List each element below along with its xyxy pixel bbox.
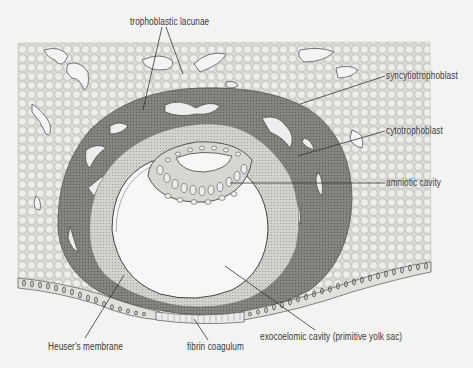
label-exocoelomic-cavity: exocoelomic cavity (primitive yolk sac)	[260, 332, 402, 342]
label-amniotic-cavity: amniotic cavity	[386, 178, 441, 188]
label-cytotrophoblast: cytotrophoblast	[386, 126, 443, 136]
label-fibrin-coagulum: fibrin coagulum	[187, 342, 244, 352]
label-trophoblastic-lacunae: trophoblastic lacunae	[130, 17, 209, 27]
blastocyst-diagram: trophoblastic lacunae syncytiotrophoblas…	[0, 0, 473, 368]
label-heusers-membrane: Heuser's membrane	[48, 342, 123, 352]
label-syncytiotrophoblast: syncytiotrophoblast	[386, 71, 458, 81]
